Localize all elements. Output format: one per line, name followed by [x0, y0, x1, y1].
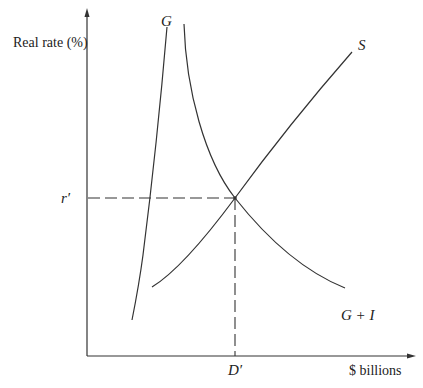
y-axis-arrow-icon [85, 8, 90, 17]
curve-g-label: G [161, 13, 172, 29]
quantity-label: D′ [227, 362, 243, 378]
loanable-funds-diagram: Real rate (%) $ billions G S G + I r′ D′ [0, 0, 423, 388]
curve-g-plus-i-label: G + I [341, 307, 375, 323]
x-axis-label: $ billions [349, 363, 402, 378]
equilibrium-guides [88, 198, 235, 356]
equilibrium-point [233, 196, 237, 200]
x-axis-arrow-icon [407, 354, 416, 359]
curve-s [152, 52, 352, 287]
curve-s-label: S [358, 37, 366, 53]
curve-g-plus-i [184, 24, 345, 288]
y-axis-label: Real rate (%) [13, 35, 88, 51]
curves [132, 24, 352, 320]
curve-g [132, 27, 167, 320]
rate-label: r′ [61, 190, 71, 206]
